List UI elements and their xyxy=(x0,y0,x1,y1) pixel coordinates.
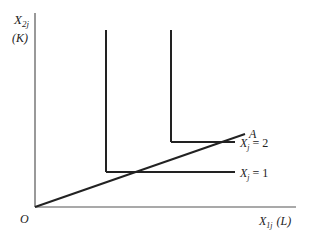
x-axis-label: X1j(L) xyxy=(258,214,291,230)
origin-label: O xyxy=(20,212,29,226)
isoquant-2-label: Xj= 2 xyxy=(239,136,268,152)
isoquant-diagram: X2j (K) O X1j(L) A Xj= 1 Xj= 2 xyxy=(0,0,311,234)
expansion-ray xyxy=(35,134,245,207)
y-axis-unit: (K) xyxy=(12,31,28,45)
isoquant-1-label: Xj= 1 xyxy=(239,166,268,182)
isoquant-1: Xj= 1 xyxy=(106,30,268,182)
y-axis-label: X2j xyxy=(13,12,29,29)
